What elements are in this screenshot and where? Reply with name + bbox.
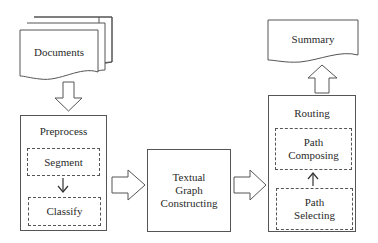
path-composing-line-2: Composing	[288, 149, 339, 162]
documents-label: Documents	[20, 46, 98, 59]
path-selecting-line-2: Selecting	[294, 209, 335, 222]
textual-graph-line-3: Constructing	[161, 197, 218, 210]
segment-step: Segment	[27, 148, 100, 176]
path-composing-step: Path Composing	[275, 128, 352, 170]
textual-graph-line-2: Graph	[175, 184, 203, 197]
segment-label: Segment	[44, 156, 83, 169]
classify-label: Classify	[46, 205, 82, 218]
textual-graph-line-1: Textual	[173, 171, 206, 184]
preprocess-title: Preprocess	[20, 125, 107, 138]
path-selecting-line-1: Path	[305, 196, 325, 209]
arrow-right-icon	[112, 170, 145, 200]
summary-label: Summary	[268, 33, 358, 46]
path-selecting-step: Path Selecting	[276, 188, 353, 230]
arrow-down-icon	[55, 82, 82, 111]
arrow-up-icon	[308, 65, 337, 93]
textual-graph-box: Textual Graph Constructing	[147, 149, 231, 232]
classify-step: Classify	[28, 197, 101, 226]
path-composing-line-1: Path	[304, 136, 324, 149]
routing-title: Routing	[268, 107, 356, 120]
arrow-right-icon	[234, 170, 266, 200]
